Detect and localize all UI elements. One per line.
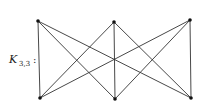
graph-vertex	[36, 19, 40, 23]
graph-label-subscript: 3,3	[19, 60, 30, 68]
edges	[38, 20, 191, 99]
graph-label-k: K	[8, 53, 18, 66]
graph-edge	[114, 22, 115, 99]
graph-edge	[190, 20, 191, 98]
graph-vertex	[112, 20, 116, 24]
graph-vertex	[188, 18, 192, 22]
k33-graph-diagram: K 3,3 :	[0, 0, 204, 106]
graph-edge	[38, 21, 40, 98]
graph-vertex	[189, 96, 193, 100]
graph-edge	[115, 20, 190, 99]
graph-vertex	[113, 97, 117, 101]
graph-vertex	[38, 96, 42, 100]
graph-label-colon: :	[33, 54, 36, 65]
